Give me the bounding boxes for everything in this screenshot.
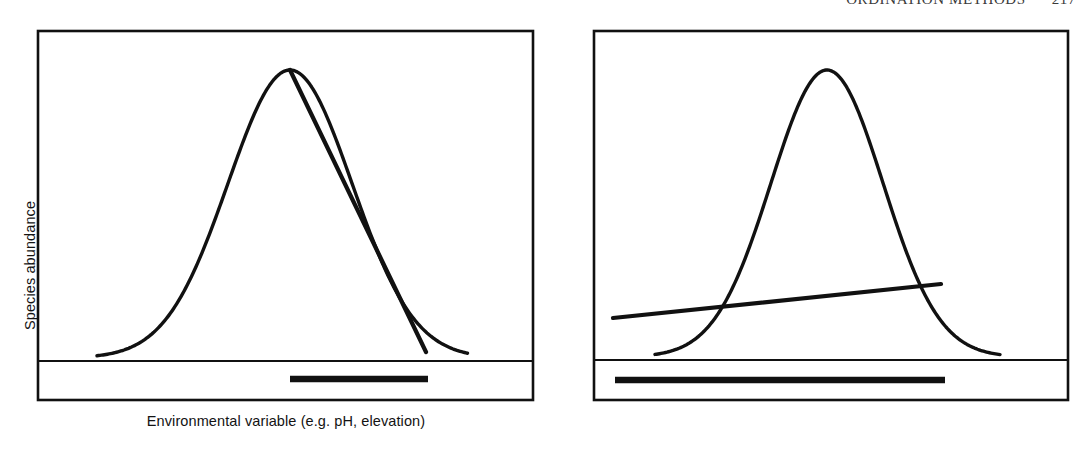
panel-b-graphics (594, 31, 1068, 400)
panel-a-linear-fit-line (290, 70, 426, 352)
panel-a-plot-frame (38, 31, 533, 400)
panel-a-graphics (38, 31, 533, 400)
figure-ordination-gradient-length: Species abundance Environmental variable… (0, 0, 1082, 454)
panel-a-species-response-curve (97, 70, 468, 356)
panel-b-linear-fit-line (613, 284, 941, 318)
panel-b-species-response-curve (655, 70, 1000, 355)
figure-plot-canvas (0, 0, 1082, 454)
panel-b-plot-frame (594, 31, 1068, 400)
